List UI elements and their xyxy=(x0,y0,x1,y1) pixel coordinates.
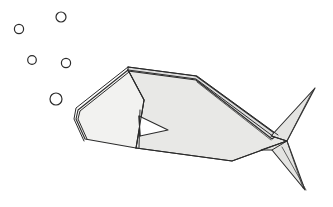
bubble-3 xyxy=(28,56,37,65)
origami-fish-drawing xyxy=(0,0,333,207)
bubble-2 xyxy=(14,24,23,33)
illustration-canvas xyxy=(0,0,333,207)
bubble-1 xyxy=(56,12,66,22)
bubble-4 xyxy=(61,58,70,67)
bubble-5 xyxy=(50,93,62,105)
